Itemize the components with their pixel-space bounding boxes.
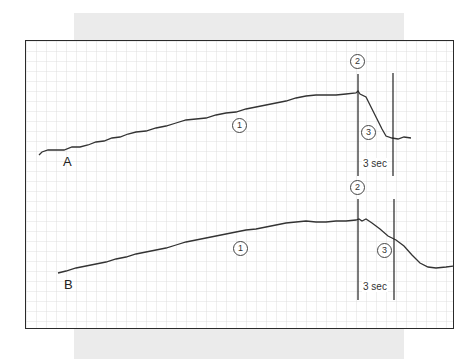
- grid-and-traces: [26, 41, 454, 329]
- trace-a-label: A: [63, 154, 72, 169]
- trace-a-interval-label: 3 sec: [362, 158, 388, 169]
- trace-b-label: B: [64, 277, 73, 292]
- trace-b-marker-2: 2: [350, 180, 365, 195]
- chart-panel: [25, 40, 454, 329]
- trace-b-marker-1: 1: [233, 241, 248, 256]
- trace-a-marker-1: 1: [232, 118, 247, 133]
- trace-b-interval-label: 3 sec: [362, 281, 388, 292]
- trace-b-marker-3: 3: [377, 243, 392, 258]
- trace-a-marker-3: 3: [361, 125, 376, 140]
- trace-a-marker-2: 2: [350, 54, 365, 69]
